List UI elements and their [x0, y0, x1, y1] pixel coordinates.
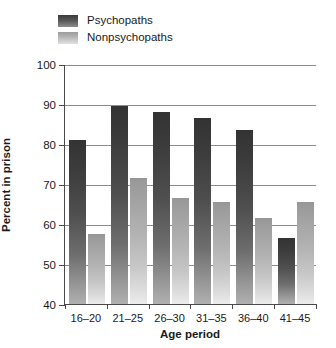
- bar-nonpsychopaths[interactable]: [297, 202, 314, 304]
- bar-nonpsychopaths[interactable]: [172, 198, 189, 304]
- bar-psychopaths[interactable]: [69, 140, 86, 304]
- bar-group: 41–45: [274, 65, 316, 304]
- x-axis-tick: [190, 304, 191, 309]
- x-axis-tick: [107, 304, 108, 309]
- bar-group: 26–30: [149, 65, 191, 304]
- y-axis-tick-label: 80: [43, 139, 56, 151]
- x-axis-category-label: 41–45: [280, 312, 311, 324]
- bar-nonpsychopaths[interactable]: [255, 218, 272, 304]
- bar-psychopaths[interactable]: [194, 118, 211, 304]
- bar-psychopaths[interactable]: [111, 106, 128, 304]
- legend-item-nonpsychopaths: Nonpsychopaths: [58, 29, 258, 46]
- x-axis-tick: [65, 304, 66, 309]
- bar-nonpsychopaths[interactable]: [213, 202, 230, 304]
- legend-swatch-psychopaths: [58, 15, 78, 27]
- x-axis-tick: [316, 304, 317, 309]
- legend-swatch-nonpsychopaths: [58, 32, 78, 44]
- bar-group: 21–25: [107, 65, 149, 304]
- legend-label-nonpsychopaths: Nonpsychopaths: [87, 31, 173, 44]
- x-axis-category-label: 31–35: [196, 312, 227, 324]
- bar-psychopaths[interactable]: [236, 130, 253, 304]
- x-axis-category-label: 26–30: [154, 312, 185, 324]
- bar-group: 36–40: [232, 65, 274, 304]
- y-axis-tick-label: 70: [43, 179, 56, 191]
- bar-nonpsychopaths[interactable]: [88, 234, 105, 304]
- x-axis-tick: [149, 304, 150, 309]
- x-axis-tick: [232, 304, 233, 309]
- y-axis-tick-label: 100: [37, 59, 56, 71]
- x-axis-category-label: 16–20: [71, 312, 102, 324]
- y-axis-tick-label: 40: [43, 299, 56, 311]
- x-axis-tick: [274, 304, 275, 309]
- x-axis-title: Age period: [64, 328, 316, 340]
- bar-group: 16–20: [65, 65, 107, 304]
- legend-label-psychopaths: Psychopaths: [87, 14, 153, 27]
- x-axis-category-label: 21–25: [112, 312, 143, 324]
- y-axis-title: Percent in prison: [0, 138, 12, 232]
- y-axis-tick-label: 60: [43, 219, 56, 231]
- legend-item-psychopaths: Psychopaths: [58, 12, 258, 29]
- bar-groups: 16–2021–2526–3031–3536–4041–45: [65, 65, 316, 304]
- bar-psychopaths[interactable]: [153, 112, 170, 304]
- plot-area: 405060708090100 16–2021–2526–3031–3536–4…: [64, 65, 316, 305]
- bar-nonpsychopaths[interactable]: [130, 178, 147, 304]
- y-axis-tick-label: 50: [43, 259, 56, 271]
- y-axis-tick-label: 90: [43, 99, 56, 111]
- bar-psychopaths[interactable]: [278, 238, 295, 304]
- x-axis-category-label: 36–40: [238, 312, 269, 324]
- bar-group: 31–35: [190, 65, 232, 304]
- chart-legend: Psychopaths Nonpsychopaths: [58, 12, 258, 46]
